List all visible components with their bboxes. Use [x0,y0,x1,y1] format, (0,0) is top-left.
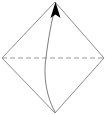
curved-arc [45,7,56,112]
diagram-canvas [0,0,106,115]
arrowhead-icon [51,2,61,18]
geometry-figure-svg [0,0,106,115]
